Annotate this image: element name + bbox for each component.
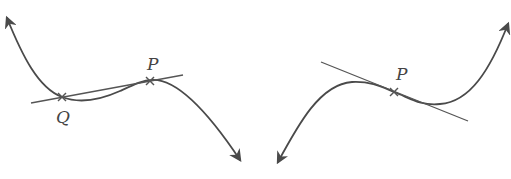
secant-line [31, 75, 183, 103]
left-panel: Q P [7, 18, 240, 160]
label-q: Q [56, 107, 70, 127]
label-p-right: P [395, 64, 408, 84]
right-panel: P [278, 24, 508, 162]
label-p-left: P [146, 54, 159, 74]
tangent-secant-diagram: Q P P [0, 0, 511, 179]
left-curve [7, 18, 240, 160]
